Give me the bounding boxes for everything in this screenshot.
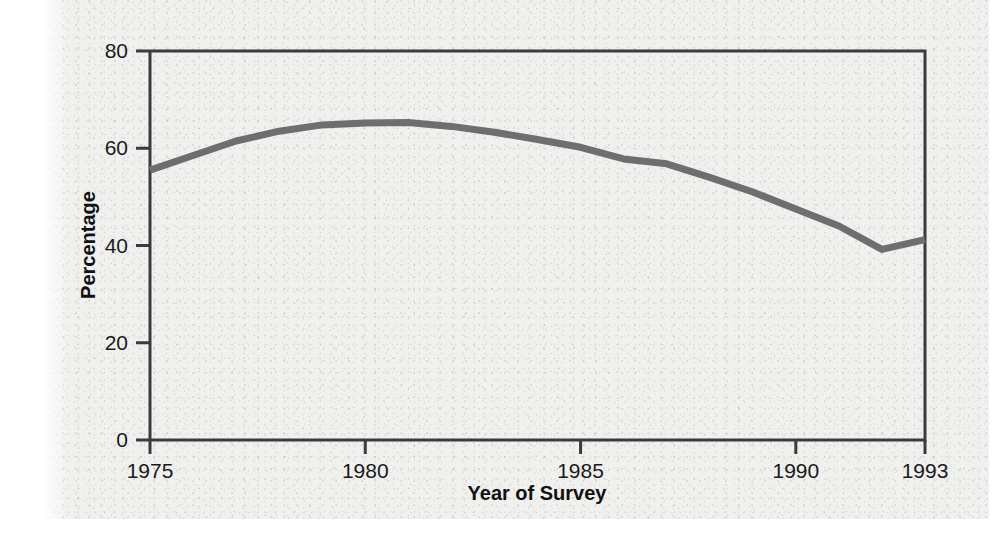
y-axis-title: Percentage bbox=[77, 191, 99, 299]
figure-canvas: 020406080 19751980198519901993 Year of S… bbox=[0, 0, 999, 541]
x-axis-tick-labels: 19751980198519901993 bbox=[127, 459, 949, 482]
y-tick-label: 40 bbox=[105, 234, 128, 257]
data-series-line bbox=[150, 123, 925, 250]
x-tick-label: 1980 bbox=[342, 459, 389, 482]
x-axis-ticks bbox=[150, 440, 925, 454]
x-tick-label: 1990 bbox=[772, 459, 819, 482]
x-tick-label: 1975 bbox=[127, 459, 174, 482]
y-tick-label: 60 bbox=[105, 136, 128, 159]
x-tick-label: 1993 bbox=[902, 459, 949, 482]
x-axis-title: Year of Survey bbox=[468, 482, 608, 504]
y-tick-label: 80 bbox=[105, 39, 128, 62]
y-tick-label: 0 bbox=[116, 428, 128, 451]
y-tick-label: 20 bbox=[105, 331, 128, 354]
y-axis-tick-labels: 020406080 bbox=[105, 39, 128, 451]
y-axis-ticks bbox=[136, 51, 150, 440]
line-chart: 020406080 19751980198519901993 Year of S… bbox=[0, 0, 999, 541]
axes-frame bbox=[150, 51, 925, 440]
axes-frame-path bbox=[150, 51, 925, 440]
x-tick-label: 1985 bbox=[557, 459, 604, 482]
